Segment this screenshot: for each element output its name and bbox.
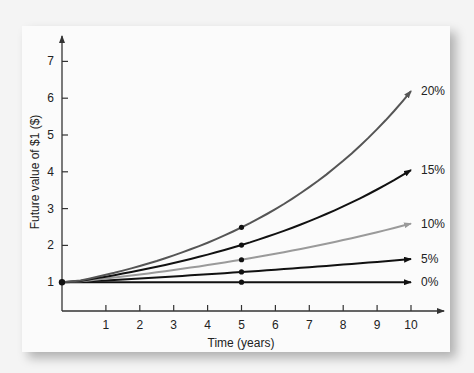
data-point-marker xyxy=(239,280,244,285)
x-tick-label: 4 xyxy=(204,318,211,332)
data-markers xyxy=(59,225,244,286)
series-line-15pct xyxy=(62,170,411,282)
y-axis-label: Future value of $1 ($) xyxy=(28,115,42,230)
x-tick-label: 2 xyxy=(136,318,143,332)
y-tick-label: 5 xyxy=(47,128,54,142)
y-tick-label: 6 xyxy=(47,91,54,105)
data-point-marker xyxy=(239,269,244,274)
series-label-10pct: 10% xyxy=(421,217,445,231)
series-label-15pct: 15% xyxy=(421,163,445,177)
x-axis-label: Time (years) xyxy=(208,336,275,350)
x-tick-label: 7 xyxy=(306,318,313,332)
labels: 0%5%10%15%20% xyxy=(421,84,445,289)
y-tick-label: 2 xyxy=(47,238,54,252)
data-point-marker xyxy=(59,279,65,285)
x-tick-label: 1 xyxy=(103,318,110,332)
series-label-20pct: 20% xyxy=(421,84,445,98)
future-value-chart: 123456789101234567Time (years)Future val… xyxy=(0,0,474,373)
x-tick-label: 10 xyxy=(404,318,418,332)
series-label-0pct: 0% xyxy=(421,275,439,289)
y-tick-label: 7 xyxy=(47,54,54,68)
series-label-5pct: 5% xyxy=(421,252,439,266)
series-line-5pct xyxy=(62,259,411,282)
y-tick-label: 1 xyxy=(47,275,54,289)
data-point-marker xyxy=(239,225,244,230)
x-tick-label: 6 xyxy=(272,318,279,332)
axes: 123456789101234567Time (years)Future val… xyxy=(28,36,444,350)
series-line-20pct xyxy=(62,91,411,282)
series-lines xyxy=(62,91,411,282)
x-tick-label: 3 xyxy=(170,318,177,332)
x-tick-label: 5 xyxy=(238,318,245,332)
x-tick-label: 8 xyxy=(340,318,347,332)
y-tick-label: 3 xyxy=(47,202,54,216)
x-tick-label: 9 xyxy=(374,318,381,332)
y-tick-label: 4 xyxy=(47,165,54,179)
data-point-marker xyxy=(239,257,244,262)
data-point-marker xyxy=(239,242,244,247)
